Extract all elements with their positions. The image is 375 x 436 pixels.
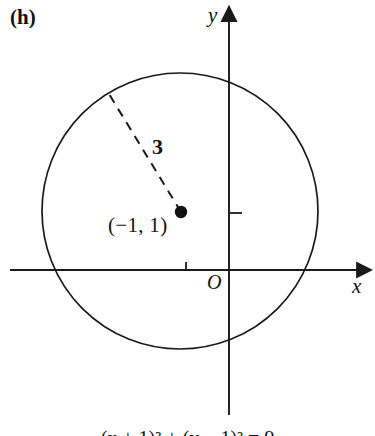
center-point-label: (−1, 1)	[108, 215, 167, 236]
coordinate-plane-diagram	[0, 0, 375, 436]
radius-length-label: 3	[152, 136, 163, 158]
axis-label-y: y	[208, 5, 217, 26]
center-point-marker	[175, 206, 187, 218]
origin-label: O	[207, 272, 221, 292]
equation-caption: (x + 1)² + (y − 1)² = 9	[0, 428, 375, 436]
axis-label-x: x	[352, 276, 361, 297]
figure-canvas: (h) y x O 3 (−1, 1) (x + 1)² + (y − 1)² …	[0, 0, 375, 436]
radius-dashed-line	[106, 89, 181, 212]
panel-label: (h)	[10, 7, 36, 28]
